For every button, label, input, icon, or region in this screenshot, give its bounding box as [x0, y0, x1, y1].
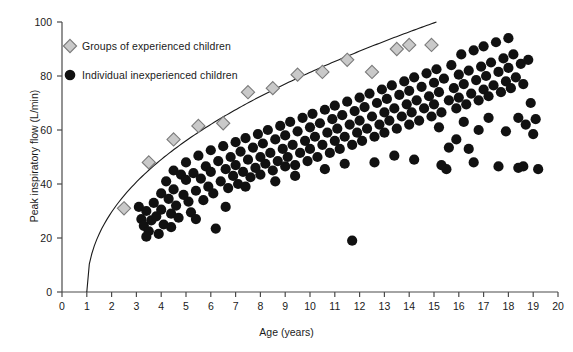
data-point-circle [325, 148, 335, 158]
data-point-diamond [291, 68, 304, 81]
data-point-circle [459, 117, 469, 127]
data-point-circle [369, 132, 379, 142]
data-point-circle [367, 111, 377, 121]
data-point-circle [479, 41, 489, 51]
data-point-circle [528, 129, 538, 139]
data-point-circle [404, 86, 414, 96]
data-point-circle [181, 157, 191, 167]
data-point-circle [409, 155, 419, 165]
data-point-circle [474, 95, 484, 105]
data-point-circle [407, 107, 417, 117]
data-point-circle [342, 97, 352, 107]
x-tick-label: 7 [233, 300, 239, 312]
data-point-circle [283, 152, 293, 162]
data-point-circle [310, 132, 320, 142]
data-point-circle [456, 49, 466, 59]
data-point-circle [387, 80, 397, 90]
data-point-circle [268, 165, 278, 175]
data-point-circle [417, 82, 427, 92]
data-point-circle [320, 164, 330, 174]
data-point-circle [451, 103, 461, 113]
data-point-circle [141, 206, 151, 216]
data-point-circle [362, 124, 372, 134]
data-point-circle [191, 186, 201, 196]
data-point-circle [322, 128, 332, 138]
data-point-circle [198, 195, 208, 205]
data-point-circle [481, 71, 491, 81]
data-point-diamond [117, 202, 130, 215]
data-point-circle [372, 98, 382, 108]
x-tick-label: 16 [453, 300, 465, 312]
data-point-circle [434, 122, 444, 132]
data-point-circle [392, 124, 402, 134]
data-point-circle [169, 184, 179, 194]
data-point-circle [295, 148, 305, 158]
data-point-circle [245, 172, 255, 182]
data-point-circle [270, 134, 280, 144]
data-point-circle [518, 161, 528, 171]
data-point-circle [270, 176, 280, 186]
data-point-circle [389, 103, 399, 113]
data-point-circle [240, 182, 250, 192]
x-tick-label: 17 [478, 300, 490, 312]
data-point-circle [208, 188, 218, 198]
data-point-circle [290, 160, 300, 170]
data-point-circle [196, 174, 206, 184]
x-tick-label: 20 [552, 300, 564, 312]
data-point-circle [498, 53, 508, 63]
x-tick-label: 11 [329, 300, 340, 312]
data-point-circle [389, 151, 399, 161]
data-point-circle [461, 99, 471, 109]
x-tick-label: 8 [257, 300, 263, 312]
data-point-circle [429, 78, 439, 88]
data-point-diamond [142, 156, 155, 169]
y-tick-label: 20 [40, 232, 52, 244]
data-point-circle [483, 113, 493, 123]
x-tick-label: 5 [183, 300, 189, 312]
data-point-circle [379, 128, 389, 138]
data-point-circle [275, 121, 285, 131]
data-point-circle [253, 129, 263, 139]
data-point-diamond [425, 38, 438, 51]
data-point-circle [501, 126, 511, 136]
data-point-circle [444, 95, 454, 105]
data-point-circle [161, 176, 171, 186]
data-point-circle [285, 117, 295, 127]
data-point-circle [258, 138, 268, 148]
series-individual-inexperienced [134, 33, 543, 246]
data-point-circle [166, 222, 176, 232]
data-point-circle [193, 151, 203, 161]
data-point-circle [156, 205, 166, 215]
x-tick-label: 13 [379, 300, 391, 312]
data-point-circle [449, 83, 459, 93]
data-point-circle [377, 84, 387, 94]
y-tick-label: 40 [40, 178, 52, 190]
y-axis-label: Peak inspiratory flow (L/min) [28, 36, 40, 276]
data-point-circle [171, 201, 181, 211]
x-tick-label: 4 [158, 300, 164, 312]
data-point-circle [459, 79, 469, 89]
data-point-circle [506, 83, 516, 93]
data-point-diamond [341, 53, 354, 66]
data-point-circle [359, 102, 369, 112]
data-point-circle [327, 114, 337, 124]
data-point-circle [444, 142, 454, 152]
data-point-circle [248, 142, 258, 152]
data-point-circle [493, 161, 503, 171]
data-point-circle [290, 171, 300, 181]
data-point-diamond [217, 117, 230, 130]
data-point-diamond [192, 119, 205, 132]
data-point-circle [218, 141, 228, 151]
data-point-circle [503, 33, 513, 43]
data-point-circle [364, 88, 374, 98]
data-point-circle [221, 202, 231, 212]
data-point-circle [404, 120, 414, 130]
data-point-circle [357, 136, 367, 146]
data-point-circle [330, 101, 340, 111]
data-point-circle [243, 155, 253, 165]
data-point-circle [305, 144, 315, 154]
data-point-circle [317, 140, 327, 150]
x-tick-label: 12 [354, 300, 366, 312]
data-point-circle [436, 160, 446, 170]
x-tick-label: 15 [428, 300, 440, 312]
